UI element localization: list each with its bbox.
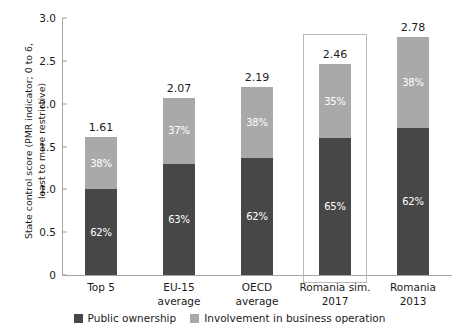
bar-segment-public-ownership[interactable]: 62% — [241, 158, 273, 275]
bar-segment-public-ownership[interactable]: 65% — [319, 138, 351, 275]
bar-segment-percent-label: 38% — [90, 158, 112, 169]
bar-segment-public-ownership[interactable]: 63% — [163, 164, 195, 275]
bar[interactable]: 1.6138%62% — [85, 137, 117, 275]
bar[interactable]: 2.0737%63% — [163, 98, 195, 275]
legend-label: Involvement in business operation — [204, 312, 385, 324]
y-axis-tick-mark — [62, 18, 67, 19]
bar[interactable]: 2.4635%65% — [319, 64, 351, 275]
y-axis-tick-label: 3.0 — [22, 12, 56, 24]
bar-segment-percent-label: 63% — [168, 214, 190, 225]
x-axis-tick-label: Romania 2013 — [365, 281, 459, 308]
bar-segment-involvement[interactable]: 38% — [241, 87, 273, 158]
plot-area: 1.6138%62%Top 52.0737%63%EU-15 average2.… — [62, 0, 452, 330]
y-axis-tick-mark — [62, 60, 67, 61]
y-axis-tick-mark — [62, 103, 67, 104]
bar-segment-percent-label: 62% — [90, 227, 112, 238]
bar-segment-percent-label: 62% — [246, 211, 268, 222]
bar-segment-percent-label: 35% — [324, 96, 346, 107]
bar[interactable]: 2.1938%62% — [241, 87, 273, 275]
bar-total-label: 2.19 — [245, 71, 270, 84]
bar-segment-percent-label: 38% — [402, 77, 424, 88]
legend-swatch-icon — [74, 314, 83, 323]
chart-legend: Public ownershipInvolvement in business … — [0, 312, 459, 324]
legend-item[interactable]: Involvement in business operation — [190, 312, 385, 324]
y-axis-tick-label: 0.5 — [22, 226, 56, 238]
bar-total-label: 1.61 — [89, 121, 114, 134]
bar-segment-percent-label: 62% — [402, 196, 424, 207]
y-axis-tick-label: 0 — [22, 269, 56, 281]
y-axis-tick-mark — [62, 232, 67, 233]
bar[interactable]: 2.7838%62% — [397, 37, 429, 275]
y-axis-ticks: 3.02.52.01.51.00.50 — [22, 0, 56, 330]
bar-segment-involvement[interactable]: 38% — [85, 137, 117, 189]
bar-segment-public-ownership[interactable]: 62% — [397, 128, 429, 275]
bar-total-label: 2.46 — [323, 48, 348, 61]
bar-total-label: 2.78 — [401, 21, 426, 34]
bar-segment-percent-label: 38% — [246, 117, 268, 128]
y-axis-tick-mark — [62, 275, 67, 276]
y-axis-tick-label: 1.5 — [22, 141, 56, 153]
bar-segment-involvement[interactable]: 38% — [397, 37, 429, 128]
bar-segment-involvement[interactable]: 37% — [163, 98, 195, 164]
bar-segment-public-ownership[interactable]: 62% — [85, 189, 117, 275]
bar-total-label: 2.07 — [167, 82, 192, 95]
bar-segment-percent-label: 37% — [168, 125, 190, 136]
y-axis-tick-mark — [62, 146, 67, 147]
y-axis-tick-label: 1.0 — [22, 183, 56, 195]
legend-item[interactable]: Public ownership — [74, 312, 177, 324]
bar-segment-involvement[interactable]: 35% — [319, 64, 351, 138]
bar-segment-percent-label: 65% — [324, 201, 346, 212]
legend-swatch-icon — [190, 314, 199, 323]
y-axis-tick-label: 2.5 — [22, 55, 56, 67]
stacked-bar-chart: State control score (PMR indicator; 0 to… — [0, 0, 459, 330]
legend-label: Public ownership — [88, 312, 177, 324]
y-axis-tick-label: 2.0 — [22, 98, 56, 110]
y-axis-tick-mark — [62, 189, 67, 190]
